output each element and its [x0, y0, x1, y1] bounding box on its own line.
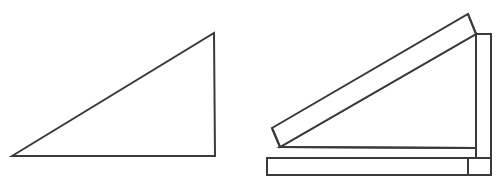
- left-figure-flat-right-triangle: [12, 33, 215, 156]
- right-figure-wedge-solid: [267, 14, 491, 175]
- base-slab-front-face: [267, 158, 491, 175]
- wedge-back-right-face: [476, 34, 491, 158]
- line-drawing-svg: [0, 0, 502, 182]
- wedge-bottom-front-edge: [280, 147, 476, 148]
- flat-right-triangle-outline: [12, 33, 215, 156]
- figure-canvas: Right triangle and corresponding 3D wedg…: [0, 0, 502, 182]
